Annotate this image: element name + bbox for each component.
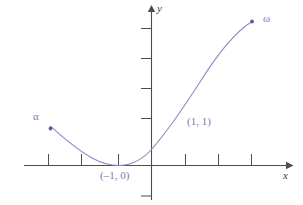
x-axis-ticks: [49, 154, 252, 166]
y-axis-ticks: [141, 29, 152, 197]
omega-point-marker: [250, 20, 254, 24]
omega-label: ω: [263, 13, 270, 24]
curve-point-label: (1, 1): [187, 116, 211, 127]
y-axis-arrow-icon: [148, 5, 155, 12]
x-axis-label: x: [283, 170, 288, 181]
y-axis-label: y: [157, 3, 162, 14]
alpha-point-marker: [49, 127, 53, 131]
alpha-label: α: [33, 111, 39, 122]
parabola-figure: α ω (1, 1) (–1, 0) y x: [0, 0, 303, 205]
vertex-label: (–1, 0): [100, 170, 129, 181]
plot-canvas: [0, 0, 303, 205]
